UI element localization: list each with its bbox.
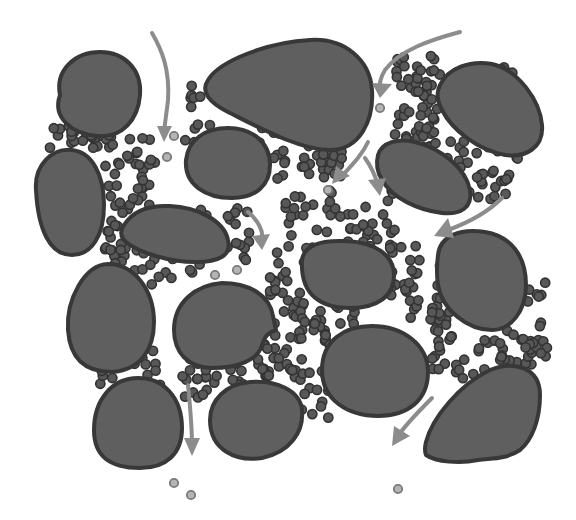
clay-particle <box>123 151 132 160</box>
fine-particle <box>170 132 178 140</box>
clay-particle <box>178 372 187 381</box>
clay-particle <box>391 130 400 139</box>
clay-particle <box>446 137 455 146</box>
clay-particle <box>106 245 115 254</box>
clay-particle <box>312 225 321 234</box>
clay-particle <box>135 160 144 169</box>
clay-particle <box>325 197 334 206</box>
clay-particle <box>108 373 117 382</box>
clay-particle <box>446 332 455 341</box>
soil-grain <box>210 382 302 459</box>
clay-particle <box>108 140 117 149</box>
clay-particle <box>299 211 308 220</box>
clay-particle <box>187 102 196 111</box>
fine-particle <box>163 153 171 161</box>
clay-particle <box>266 273 275 282</box>
clay-particle <box>414 296 423 305</box>
clay-particle <box>273 174 282 183</box>
clay-particle <box>284 242 293 251</box>
clay-particle <box>386 244 395 253</box>
clay-particle <box>193 120 202 129</box>
clay-particle <box>473 173 482 182</box>
clay-particle <box>428 308 437 317</box>
clay-particle <box>427 95 436 104</box>
clay-particle <box>101 161 110 170</box>
clay-particle <box>521 343 530 352</box>
clay-particle <box>115 160 124 169</box>
clay-particle <box>141 360 150 369</box>
clay-particle <box>264 371 273 380</box>
clay-particle <box>301 202 310 211</box>
clay-particle <box>147 280 156 289</box>
clay-particle <box>280 158 289 167</box>
clay-particle <box>288 366 297 375</box>
arrow-icon <box>152 33 172 142</box>
clay-particle <box>167 273 176 282</box>
clay-particle <box>322 227 331 236</box>
clay-particle <box>212 371 221 380</box>
fine-particle <box>394 485 402 493</box>
clay-particle <box>271 285 280 294</box>
clay-particle <box>321 331 330 340</box>
clay-particle <box>297 355 306 364</box>
clay-particle <box>281 268 290 277</box>
clay-particle <box>290 192 299 201</box>
clay-particle <box>281 199 290 208</box>
clay-particle <box>300 389 309 398</box>
clay-particle <box>472 149 481 158</box>
clay-particle <box>426 52 435 61</box>
clay-particle <box>187 81 196 90</box>
clay-particle <box>400 62 409 71</box>
clay-particle <box>460 355 469 364</box>
soil-grain <box>94 378 182 468</box>
clay-particle <box>416 111 425 120</box>
clay-particle <box>316 402 325 411</box>
clay-particle <box>316 307 325 316</box>
soil-grain <box>36 150 104 255</box>
clay-particle <box>305 368 314 377</box>
clay-particle <box>263 344 272 353</box>
clay-particle <box>502 175 511 184</box>
clay-particle <box>181 136 190 145</box>
clay-particle <box>415 256 424 265</box>
clay-particle <box>310 319 319 328</box>
clay-particle <box>231 219 240 228</box>
clay-particle <box>133 184 142 193</box>
clay-particle <box>300 153 309 162</box>
clay-particle <box>536 349 545 358</box>
clay-particle <box>89 143 98 152</box>
clay-particle <box>414 87 423 96</box>
soil-grain <box>322 326 428 416</box>
clay-particle <box>118 208 127 217</box>
clay-particle <box>198 390 207 399</box>
clay-particle <box>459 147 468 156</box>
clay-particle <box>406 313 415 322</box>
clay-particle <box>112 181 121 190</box>
clay-particle <box>279 146 288 155</box>
clay-particle <box>337 154 346 163</box>
clay-particle <box>390 225 399 234</box>
clay-particle <box>297 334 306 343</box>
clay-particle <box>110 169 119 178</box>
clay-particle <box>407 266 416 275</box>
clay-particle <box>129 194 138 203</box>
clay-particle <box>349 210 358 219</box>
clay-particle <box>379 210 388 219</box>
clay-particle <box>146 155 155 164</box>
clay-particle <box>474 344 483 353</box>
clay-particle <box>392 72 401 81</box>
clay-particle <box>435 342 444 351</box>
clay-particle <box>497 352 506 361</box>
clay-particle <box>405 107 414 116</box>
clay-particle <box>496 339 505 348</box>
fine-particle <box>187 491 195 499</box>
fine-particle <box>376 104 384 112</box>
clay-particle <box>422 124 431 133</box>
clay-particle <box>78 136 87 145</box>
clay-particle <box>441 320 450 329</box>
clay-particle <box>324 413 333 422</box>
clay-particle <box>319 173 328 182</box>
clay-particle <box>237 366 246 375</box>
clay-particle <box>49 124 58 133</box>
clay-particle <box>273 248 282 257</box>
